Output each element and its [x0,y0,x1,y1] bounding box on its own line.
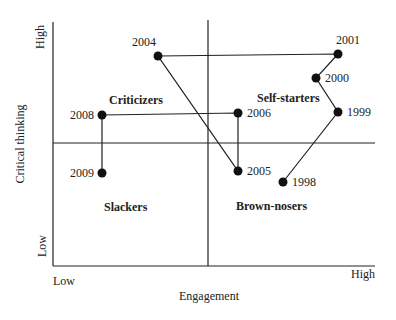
data-point-1999 [334,108,343,117]
data-point-2009 [98,169,107,178]
data-point-1998 [279,178,288,187]
point-label-2005: 2005 [247,164,271,178]
point-label-2008: 2008 [70,108,94,122]
quadrant-label-self-starters: Self-starters [257,91,320,105]
y-tick-high: High [33,25,47,49]
data-points [98,50,343,187]
point-label-2001: 2001 [336,33,360,47]
point-label-2009: 2009 [70,166,94,180]
quadrant-label-criticizers: Criticizers [109,93,163,107]
data-point-2005 [234,167,243,176]
data-point-2004 [154,52,163,61]
x-axis-title: Engagement [179,289,240,303]
point-label-2000: 2000 [325,71,349,85]
data-point-2006 [234,109,243,118]
quadrant-chart: LowHighLowHighEngagementCritical thinkin… [0,0,396,320]
point-label-1999: 1999 [347,105,371,119]
trajectory-path [102,54,338,182]
point-label-1998: 1998 [292,175,316,189]
x-tick-high: High [351,267,375,281]
data-point-2000 [312,74,321,83]
quadrant-label-slackers: Slackers [104,200,148,214]
axes [53,20,375,266]
point-label-2004: 2004 [132,35,156,49]
data-point-2001 [334,50,343,59]
quadrant-label-brown-nosers: Brown-nosers [236,199,307,213]
y-axis-title: Critical thinking [13,105,27,184]
trajectory-lines [102,54,338,182]
point-label-2006: 2006 [247,106,271,120]
data-point-2008 [98,111,107,120]
labels: LowHighLowHighEngagementCritical thinkin… [13,25,375,303]
y-tick-low: Low [35,235,49,257]
x-tick-low: Low [53,274,75,288]
